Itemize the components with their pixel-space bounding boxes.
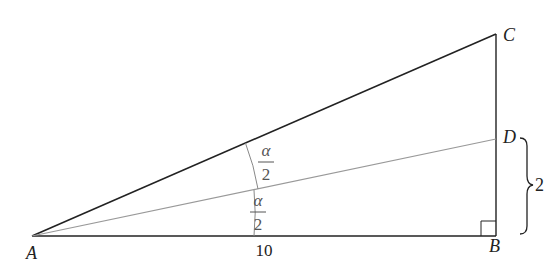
angle-upper-numerator: α (262, 141, 272, 160)
angle-upper-denominator: 2 (262, 165, 271, 184)
vertex-a-label: A (25, 243, 38, 263)
right-angle-marker (481, 221, 496, 236)
segment-ac (32, 34, 496, 236)
angle-arc-upper (246, 143, 259, 189)
vertex-d-label: D (502, 127, 516, 147)
brace-db (520, 138, 533, 234)
angle-lower-denominator: 2 (254, 215, 263, 234)
vertex-b-label: B (489, 236, 500, 256)
vertex-c-label: C (503, 25, 516, 45)
triangle-diagram: α 2 α 2 10 A B C D 2 (0, 0, 559, 274)
angle-lower-numerator: α (254, 191, 264, 210)
side-ab-label: 10 (256, 241, 273, 260)
brace-label: 2 (535, 175, 544, 195)
